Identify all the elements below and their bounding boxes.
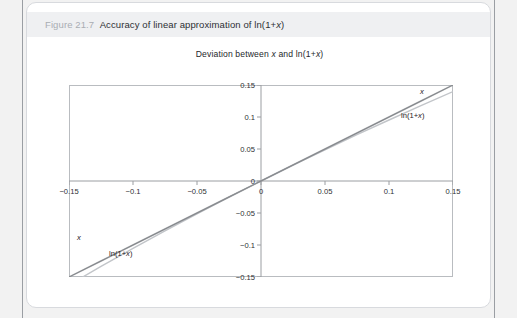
page-right-rule bbox=[494, 0, 495, 318]
x-tick-label: −0.1 bbox=[126, 187, 141, 196]
series-label-x-top: x bbox=[420, 87, 424, 96]
chart: Deviation between x and ln(1+x) −0.15−0.… bbox=[27, 37, 491, 308]
plot-area: −0.15−0.1−0.0500.050.10.150.150.10.050−0… bbox=[69, 85, 453, 277]
x-tick-label: 0 bbox=[259, 187, 263, 196]
figure-caption-band: Figure 21.7 Accuracy of linear approxima… bbox=[27, 12, 490, 37]
y-tick-label: 0.15 bbox=[69, 81, 255, 90]
y-tick-label: −0.1 bbox=[69, 241, 255, 250]
figure-card: Figure 21.7 Accuracy of linear approxima… bbox=[26, 2, 491, 308]
x-tick-label: 0.15 bbox=[446, 187, 461, 196]
figure-caption: Figure 21.7 Accuracy of linear approxima… bbox=[27, 19, 284, 30]
y-tick-label: 0.1 bbox=[69, 113, 255, 122]
x-tick-label: 0.05 bbox=[318, 187, 333, 196]
x-tick-label: 0.1 bbox=[384, 187, 395, 196]
figure-caption-title: Accuracy of linear approximation of ln(1… bbox=[97, 19, 284, 30]
y-tick-label: −0.15 bbox=[69, 273, 255, 282]
y-tick-label: 0.05 bbox=[69, 145, 255, 154]
series-label-ln-top: ln(1+x) bbox=[401, 111, 424, 120]
x-tick-label: −0.15 bbox=[59, 187, 78, 196]
x-tick-label: −0.05 bbox=[187, 187, 206, 196]
y-tick-label: −0.05 bbox=[69, 209, 255, 218]
figure-number: Figure 21.7 bbox=[45, 19, 94, 30]
series-label-x-bottom: x bbox=[77, 233, 81, 242]
chart-title: Deviation between x and ln(1+x) bbox=[27, 49, 491, 59]
page-left-rule bbox=[22, 0, 23, 318]
y-tick-label: 0 bbox=[69, 177, 255, 186]
series-label-ln-bottom: ln(1+x) bbox=[109, 249, 132, 258]
